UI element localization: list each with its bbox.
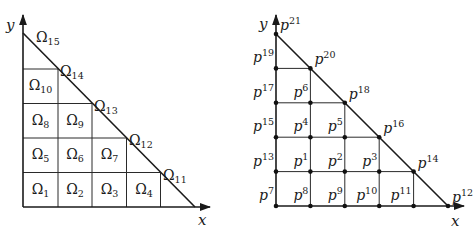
- node-dot-p20: [308, 66, 313, 71]
- boundary-label-omega-15: Ω15: [36, 29, 60, 47]
- boundary-label-omega-13: Ω13: [94, 98, 118, 116]
- node-dot-p4: [308, 135, 313, 140]
- node-label-p12: p12: [452, 187, 473, 205]
- cell-label-omega-7: Ω7: [101, 146, 119, 164]
- node-dot-p16: [377, 135, 382, 140]
- node-dot-p21: [274, 32, 279, 37]
- node-label-p21: p21: [280, 15, 301, 33]
- node-dot-p9: [343, 204, 348, 209]
- node-label-p8: p8: [293, 185, 308, 203]
- node-dot-p6: [308, 101, 313, 106]
- cell-label-omega-2: Ω2: [66, 181, 84, 199]
- node-dot-p11: [411, 204, 416, 209]
- node-dot-p15: [274, 135, 279, 140]
- node-label-p4: p4: [293, 116, 308, 134]
- node-dot-p13: [274, 169, 279, 174]
- cell-label-omega-1: Ω1: [32, 181, 50, 199]
- node-label-p7: p7: [259, 185, 274, 203]
- right-y-axis-label: y: [258, 15, 268, 33]
- cell-label-omega-6: Ω6: [66, 146, 84, 164]
- boundary-label-omega-11: Ω11: [163, 167, 187, 185]
- cell-label-omega-4: Ω4: [135, 181, 153, 199]
- figure-canvas: y x Ω1Ω2Ω3Ω4Ω5Ω6Ω7Ω8Ω9Ω10 Ω11Ω12Ω13Ω14Ω1…: [0, 0, 474, 239]
- node-dot-p17: [274, 101, 279, 106]
- right-x-axis-label: x: [451, 212, 460, 230]
- node-dot-p5: [343, 135, 348, 140]
- cell-label-omega-8: Ω8: [32, 112, 50, 130]
- node-dot-p8: [308, 204, 313, 209]
- node-label-p11: p11: [391, 185, 412, 203]
- cell-label-omega-5: Ω5: [32, 146, 50, 164]
- cell-label-omega-3: Ω3: [101, 181, 119, 199]
- node-label-p14: p14: [418, 153, 439, 171]
- node-dot-p7: [274, 204, 279, 209]
- node-label-p13: p13: [253, 151, 274, 169]
- node-label-p2: p2: [328, 151, 343, 169]
- node-dot-p2: [343, 169, 348, 174]
- node-label-p6: p6: [293, 82, 308, 100]
- node-dot-p19: [274, 66, 279, 71]
- node-label-p19: p19: [253, 47, 274, 65]
- node-dot-p12: [446, 204, 451, 209]
- node-dot-p14: [411, 169, 416, 174]
- right-diagram-nodes: y x p1p2p3p4p5p6p7p8p9p10p11p12p13p14p15…: [253, 15, 473, 230]
- node-label-p16: p16: [383, 118, 404, 136]
- left-x-axis-label: x: [198, 211, 207, 229]
- node-label-p10: p10: [356, 185, 377, 203]
- node-label-p17: p17: [253, 82, 274, 100]
- node-label-p1: p1: [293, 151, 308, 169]
- node-label-p3: p3: [362, 151, 377, 169]
- boundary-label-omega-12: Ω12: [129, 132, 153, 150]
- left-diagram-subdomains: y x Ω1Ω2Ω3Ω4Ω5Ω6Ω7Ω8Ω9Ω10 Ω11Ω12Ω13Ω14Ω1…: [5, 15, 210, 229]
- node-label-p15: p15: [253, 116, 274, 134]
- node-label-p20: p20: [314, 49, 335, 67]
- node-dot-p10: [377, 204, 382, 209]
- node-label-p9: p9: [328, 185, 343, 203]
- node-dot-p3: [377, 169, 382, 174]
- left-y-axis-label: y: [5, 16, 15, 34]
- boundary-label-omega-14: Ω14: [60, 63, 84, 81]
- node-dot-p1: [308, 169, 313, 174]
- node-label-p5: p5: [328, 116, 343, 134]
- node-label-p18: p18: [349, 84, 370, 102]
- cell-label-omega-10: Ω10: [29, 77, 53, 95]
- cell-label-omega-9: Ω9: [66, 112, 84, 130]
- node-dot-p18: [343, 101, 348, 106]
